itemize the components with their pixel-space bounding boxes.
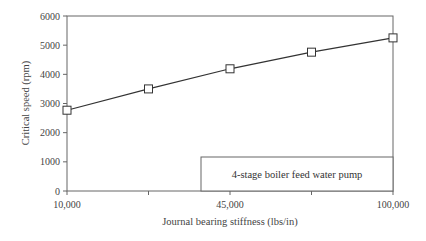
y-axis: 0100020003000400050006000	[40, 11, 67, 197]
line-chart: 0100020003000400050006000 10,00045,00010…	[0, 0, 426, 241]
legend: 4-stage boiler feed water pump	[201, 157, 393, 191]
y-tick-label: 5000	[40, 40, 60, 51]
data-series	[63, 34, 397, 114]
x-tick-label: 100,000	[377, 199, 410, 210]
series-line	[67, 38, 393, 110]
square-marker-icon	[145, 85, 153, 93]
square-marker-icon	[226, 65, 234, 73]
y-tick-label: 0	[55, 186, 60, 197]
x-tick-label: 45,000	[216, 199, 244, 210]
x-axis: 10,00045,000100,000	[53, 191, 409, 210]
x-axis-title: Journal bearing stiffness (lbs/in)	[162, 216, 298, 228]
square-marker-icon	[308, 48, 316, 56]
y-tick-label: 3000	[40, 98, 60, 109]
y-tick-label: 6000	[40, 11, 60, 22]
square-marker-icon	[389, 34, 397, 42]
legend-label: 4-stage boiler feed water pump	[232, 169, 363, 180]
y-tick-label: 2000	[40, 127, 60, 138]
square-marker-icon	[63, 106, 71, 114]
y-tick-label: 1000	[40, 156, 60, 167]
y-tick-label: 4000	[40, 69, 60, 80]
y-axis-title: Critical speed (rpm)	[20, 60, 32, 145]
x-tick-label: 10,000	[53, 199, 81, 210]
